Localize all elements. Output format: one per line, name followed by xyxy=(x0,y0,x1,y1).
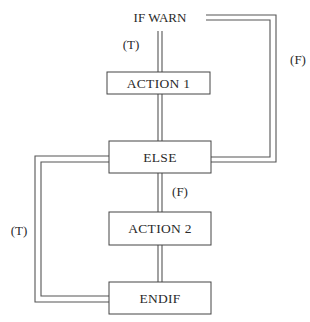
node-endif: ENDIF xyxy=(109,282,211,314)
node-action2: ACTION 2 xyxy=(109,212,211,245)
node-else: ELSE xyxy=(109,141,211,173)
edge-start-to-action1 xyxy=(158,31,162,72)
edge-else-to-endif xyxy=(35,156,109,302)
edge-label-true-top: (T) xyxy=(123,37,140,52)
edge-action2-to-endif xyxy=(158,245,162,282)
flowchart-diagram: IF WARN (T) (F) (F) (T) ACTION 1 ELSE xyxy=(0,0,310,322)
edge-action1-to-else xyxy=(158,94,162,141)
edge-else-to-action2 xyxy=(158,173,162,212)
node-else-label: ELSE xyxy=(143,150,176,165)
node-endif-label: ENDIF xyxy=(139,291,180,306)
edge-start-to-else xyxy=(206,15,276,162)
edge-label-false-middle: (F) xyxy=(172,184,188,199)
edge-label-false-right: (F) xyxy=(290,52,306,67)
edge-label-true-left: (T) xyxy=(11,223,28,238)
node-action1-label: ACTION 1 xyxy=(127,76,191,91)
node-action1: ACTION 1 xyxy=(107,72,210,94)
node-action2-label: ACTION 2 xyxy=(128,221,192,236)
start-condition-label: IF WARN xyxy=(134,10,187,25)
